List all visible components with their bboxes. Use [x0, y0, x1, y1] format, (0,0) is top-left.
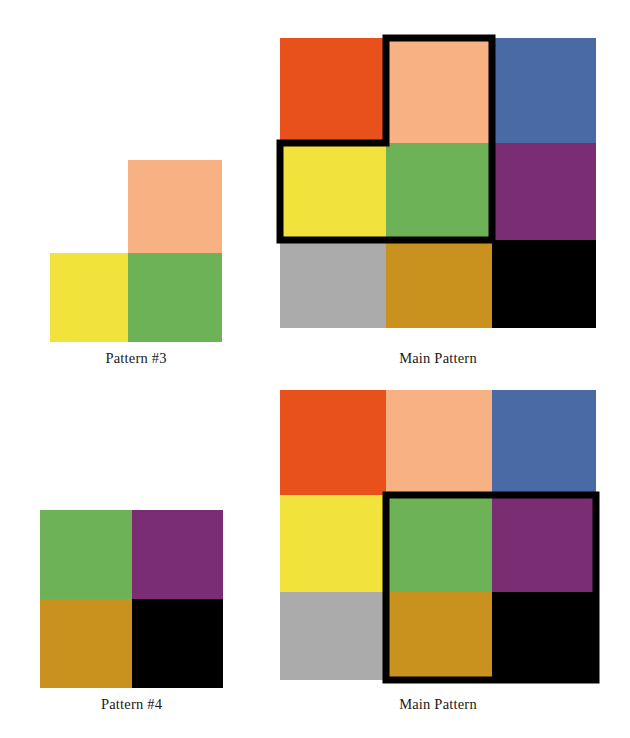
- figure-canvas: Pattern #3 Main Pattern Pattern #4: [0, 0, 630, 738]
- pattern-3-caption: Pattern #3: [50, 350, 222, 367]
- pattern-4-tile-gold: [40, 599, 132, 688]
- pattern-3-figure: [50, 160, 222, 342]
- pattern-4-tile-purple: [132, 510, 223, 599]
- pattern-4-figure: [40, 510, 223, 688]
- main-top-highlight-outline: [280, 38, 596, 328]
- pattern-4-caption: Pattern #4: [40, 696, 223, 713]
- pattern-4-tile-green: [40, 510, 132, 599]
- pattern-4-tile-black: [132, 599, 223, 688]
- pattern-3-tile-green: [128, 253, 222, 342]
- main-pattern-top-figure: [280, 38, 596, 328]
- pattern-3-tile-yellow: [50, 253, 128, 342]
- main-pattern-bottom-caption: Main Pattern: [280, 696, 596, 713]
- main-pattern-bottom-figure: [280, 390, 596, 680]
- main-pattern-top-caption: Main Pattern: [280, 350, 596, 367]
- main-bottom-highlight-outline: [280, 390, 596, 680]
- pattern-3-tile-peach: [128, 160, 222, 253]
